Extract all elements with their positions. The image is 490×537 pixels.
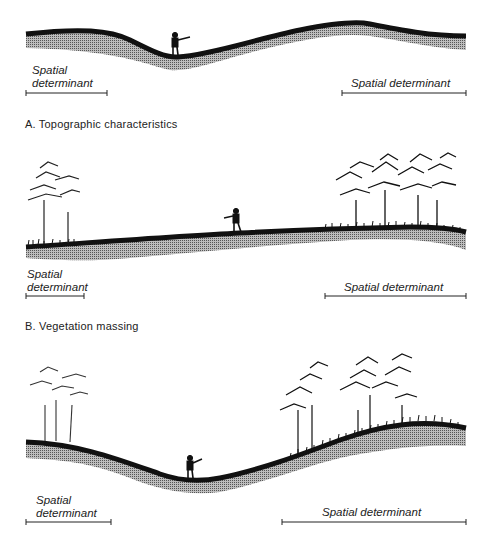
label-line-1: Spatial (32, 64, 93, 77)
panel-c-right-label: Spatial determinant (322, 506, 421, 519)
panel-c-left-label: Spatial determinant (36, 494, 97, 520)
observer-figure-a (172, 32, 190, 55)
panel-b-right-label: Spatial determinant (344, 281, 443, 294)
panel-a-caption: A. Topographic characteristics (25, 118, 178, 130)
label-line-1: Spatial (36, 494, 97, 507)
label-line-2: determinant (27, 281, 88, 294)
panel-a-left-label: Spatial determinant (32, 64, 93, 90)
panel-b-caption: B. Vegetation massing (25, 320, 139, 332)
label-line-1: Spatial (27, 268, 88, 281)
panel-c-terrain (26, 424, 466, 494)
panel-a-right-label: Spatial determinant (351, 77, 450, 90)
observer-figure-c (187, 455, 202, 478)
trees-left-c (30, 367, 88, 442)
observer-figure-b (224, 208, 241, 232)
trees-right-b (336, 153, 456, 228)
trees-left-b (28, 162, 80, 244)
label-line-2: determinant (36, 507, 97, 520)
label-line-2: determinant (32, 77, 93, 90)
panel-b-terrain (26, 227, 466, 260)
panel-b-left-label: Spatial determinant (27, 268, 88, 294)
